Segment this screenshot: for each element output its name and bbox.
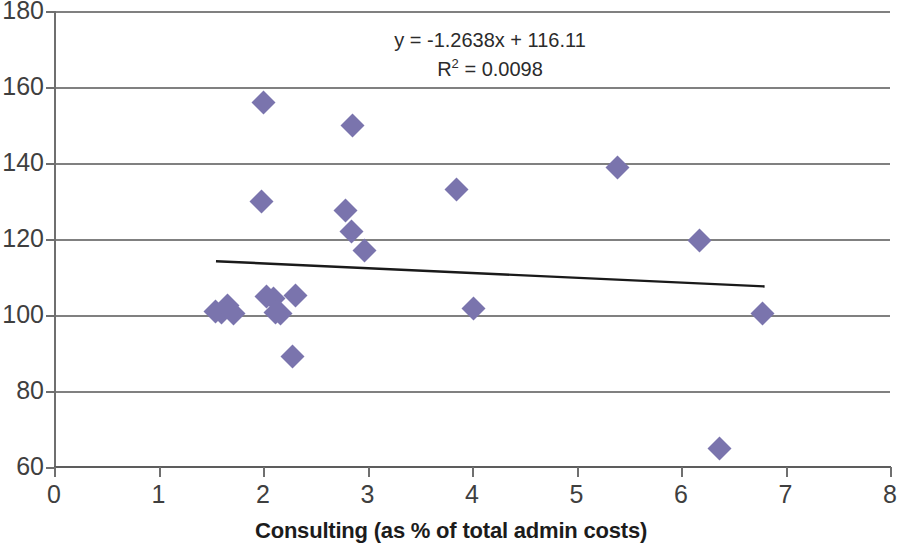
x-axis-tick: [681, 467, 683, 477]
r-squared-symbol: R: [437, 58, 451, 80]
data-point: [708, 436, 732, 460]
x-axis-tick: [159, 467, 161, 477]
y-axis-tick: [46, 11, 55, 13]
y-axis-tick: [46, 87, 55, 89]
scatter-chart: 6080100120140160180 012345678 y = -1.263…: [0, 0, 902, 552]
gridline: [54, 87, 890, 89]
x-axis-tick: [786, 467, 788, 477]
data-point: [280, 344, 304, 368]
y-axis-tick: [46, 163, 55, 165]
data-point: [444, 178, 468, 202]
x-axis-tick-label: 2: [243, 482, 283, 507]
gridline: [54, 391, 890, 393]
x-axis-tick-label: 3: [348, 482, 388, 507]
y-axis-tick-label: 60: [0, 454, 44, 479]
y-axis-tick-label: 100: [0, 302, 44, 327]
r-squared-exponent: 2: [452, 56, 459, 71]
data-point: [250, 189, 274, 213]
x-axis-tick: [472, 467, 474, 477]
regression-annotation: y = -1.2638x + 116.11 R2 = 0.0098: [330, 26, 650, 84]
y-axis-tick: [46, 315, 55, 317]
data-point: [352, 239, 376, 263]
x-axis-tick: [890, 467, 892, 477]
y-axis-tick: [46, 239, 55, 241]
x-axis-tick: [54, 467, 56, 477]
r-squared-label: R2 = 0.0098: [330, 55, 650, 84]
x-axis-tick: [577, 467, 579, 477]
y-axis-tick-label: 80: [0, 378, 44, 403]
x-axis-tick-label: 1: [139, 482, 179, 507]
data-point: [334, 198, 358, 222]
gridline: [54, 11, 890, 13]
x-axis-tick: [368, 467, 370, 477]
trendline-equation: y = -1.2638x + 116.11: [330, 26, 650, 55]
gridline: [54, 239, 890, 241]
x-axis-tick-label: 6: [661, 482, 701, 507]
x-axis-tick-label: 0: [34, 482, 74, 507]
x-axis-title: Consulting (as % of total admin costs): [0, 518, 902, 544]
data-point: [605, 156, 629, 180]
data-point: [283, 283, 307, 307]
x-axis-tick: [263, 467, 265, 477]
x-axis-tick-label: 4: [452, 482, 492, 507]
x-axis-tick-label: 7: [766, 482, 806, 507]
r-squared-value: = 0.0098: [464, 58, 542, 80]
data-point: [750, 302, 774, 326]
y-axis-tick-label: 140: [0, 150, 44, 175]
x-axis-tick-label: 5: [557, 482, 597, 507]
y-axis-tick: [46, 391, 55, 393]
gridline: [54, 163, 890, 165]
data-point: [251, 90, 275, 114]
x-axis-tick-label: 8: [870, 482, 902, 507]
y-axis-tick-label: 160: [0, 74, 44, 99]
data-point: [341, 113, 365, 137]
data-point: [688, 229, 712, 253]
y-axis-tick-label: 180: [0, 0, 44, 23]
y-axis-tick-label: 120: [0, 226, 44, 251]
